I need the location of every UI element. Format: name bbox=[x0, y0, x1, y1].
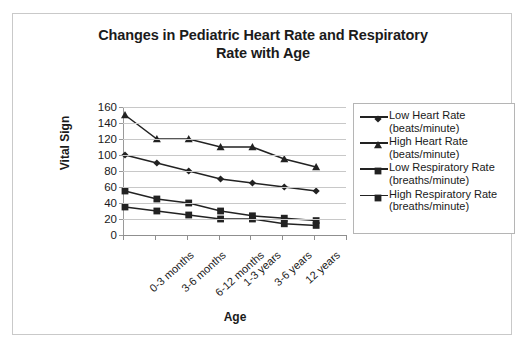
legend-label-line-2: (beats/minute) bbox=[389, 148, 468, 161]
legend-marker-diamond-icon bbox=[359, 110, 389, 123]
legend-label-line-1: High Respiratory Rate bbox=[389, 188, 497, 201]
legend-label-line-2: (breaths/minute) bbox=[389, 174, 495, 187]
data-point-marker bbox=[374, 115, 381, 122]
legend-label: High Respiratory Rate(breaths/minute) bbox=[389, 188, 497, 213]
legend-label-line-2: (breaths/minute) bbox=[389, 200, 497, 213]
legend-label-line-1: Low Heart Rate bbox=[389, 109, 465, 122]
legend-label: Low Respiratory Rate(breaths/minute) bbox=[389, 161, 495, 186]
data-point-marker bbox=[375, 168, 382, 175]
legend-label-line-1: High Heart Rate bbox=[389, 135, 468, 148]
data-point-marker bbox=[375, 194, 382, 201]
legend-label: High Heart Rate(beats/minute) bbox=[389, 135, 468, 160]
chart-legend: Low Heart Rate(beats/minute)High Heart R… bbox=[353, 103, 515, 234]
legend-label-line-1: Low Respiratory Rate bbox=[389, 161, 495, 174]
legend-label: Low Heart Rate(beats/minute) bbox=[389, 109, 465, 134]
legend-marker-square-icon bbox=[359, 162, 389, 175]
legend-item[interactable]: High Respiratory Rate(breaths/minute) bbox=[359, 188, 510, 213]
legend-marker-square-icon bbox=[359, 189, 389, 202]
legend-item[interactable]: Low Heart Rate(beats/minute) bbox=[359, 109, 510, 134]
legend-marker-triangle-icon bbox=[359, 136, 389, 149]
legend-item[interactable]: Low Respiratory Rate(breaths/minute) bbox=[359, 161, 510, 186]
data-point-marker bbox=[374, 141, 382, 148]
chart-frame: Changes in Pediatric Heart Rate and Resp… bbox=[12, 13, 512, 335]
legend-item[interactable]: High Heart Rate(beats/minute) bbox=[359, 135, 510, 160]
legend-label-line-2: (beats/minute) bbox=[389, 122, 465, 135]
